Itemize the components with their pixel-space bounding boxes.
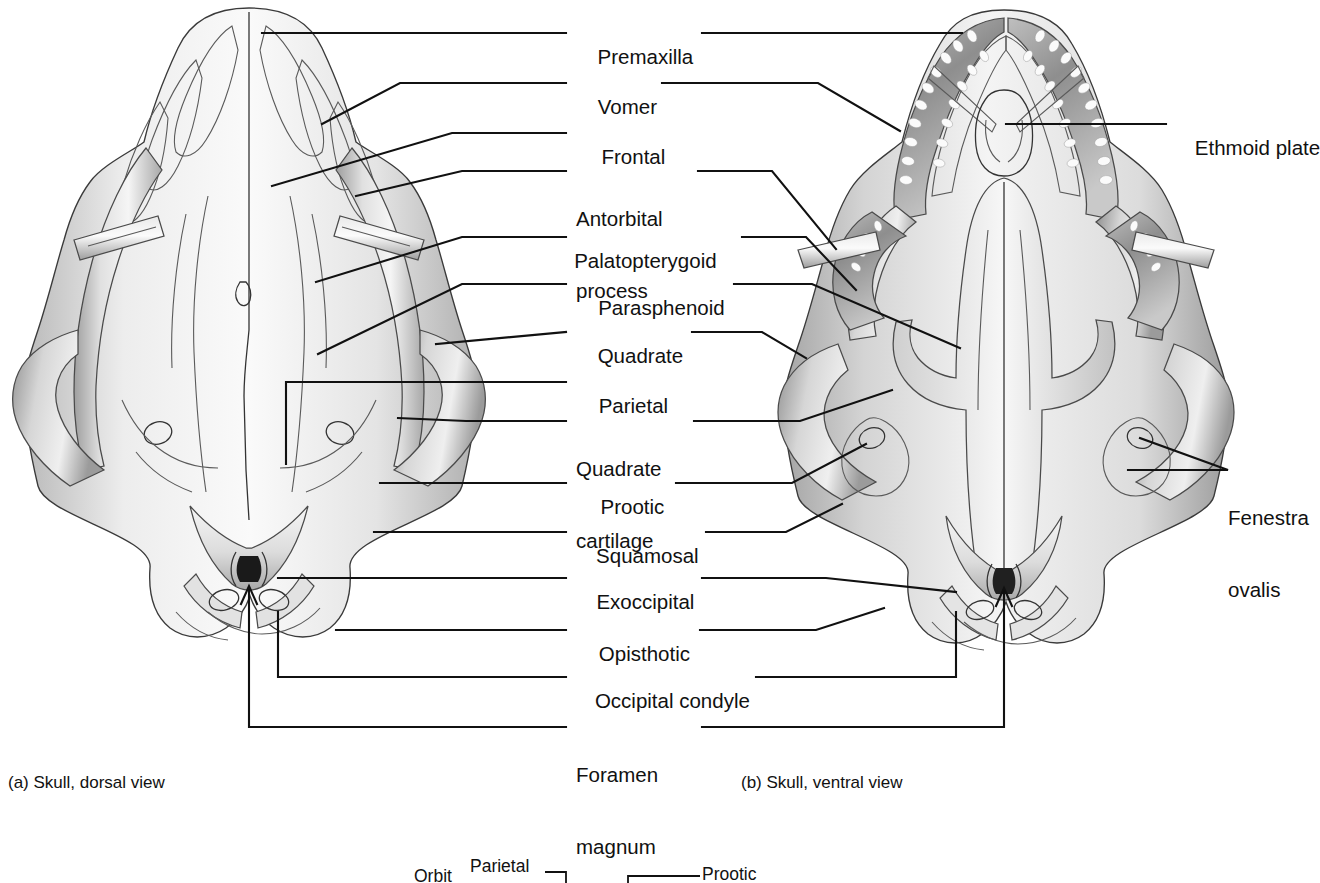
label-premaxilla-line1: Premaxilla	[598, 45, 694, 68]
dorsal-skull-drawing	[13, 8, 486, 640]
label-foramen-magnum-line2: magnum	[576, 835, 658, 859]
label-parasphenoid-line1: Parasphenoid	[598, 296, 725, 319]
label-prootic-line1: Prootic	[600, 495, 664, 518]
label-occipital-condyle-line1: Occipital condyle	[595, 689, 750, 712]
caption-panel-a: (a) Skull, dorsal view	[8, 773, 165, 793]
label-vomer-line1: Vomer	[598, 95, 657, 118]
ventral-skull-drawing	[778, 10, 1234, 650]
leader-vomer-right	[662, 83, 900, 131]
label-fenestra-ovalis: Fenestra ovalis	[1228, 458, 1309, 650]
label-quadrate-line1: Quadrate	[598, 344, 683, 367]
caption-panel-b: (b) Skull, ventral view	[741, 773, 903, 793]
label-exoccipital-line1: Exoccipital	[596, 590, 694, 613]
cut-label-prootic: Prootic	[702, 864, 756, 883]
label-palatopterygoid-line1: Palatopterygoid	[574, 249, 716, 272]
label-foramen-magnum-line1: Foramen	[576, 763, 658, 787]
label-ethmoid-plate: Ethmoid plate	[1172, 112, 1320, 184]
label-fenestra-ovalis-line1: Fenestra	[1228, 506, 1309, 530]
label-foramen-magnum: Foramen magnum	[576, 715, 658, 883]
cut-label-orbit: Orbit	[414, 866, 452, 883]
label-squamosal-line1: Squamosal	[596, 544, 699, 567]
leader-cut-parietal	[545, 872, 566, 883]
leader-opisthotic-right	[700, 608, 884, 630]
leader-vomer-left	[322, 83, 566, 124]
label-ethmoid-plate-line1: Ethmoid plate	[1195, 136, 1320, 159]
cut-label-parietal: Parietal	[470, 856, 529, 877]
label-opisthotic-line1: Opisthotic	[599, 642, 690, 665]
label-fenestra-ovalis-line2: ovalis	[1228, 578, 1309, 602]
